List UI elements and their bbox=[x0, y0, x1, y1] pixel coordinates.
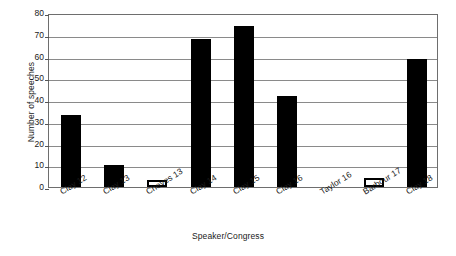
y-tick-label-20: 20 bbox=[22, 140, 44, 149]
plot-area bbox=[48, 14, 438, 188]
y-tick-label-60: 60 bbox=[22, 53, 44, 62]
bar-chart: Number of speeches 01020304050607080 Cla… bbox=[0, 0, 456, 256]
bars-layer bbox=[49, 15, 437, 187]
y-tick-label-40: 40 bbox=[22, 96, 44, 105]
bar-clay-15 bbox=[234, 26, 254, 187]
bar-clay-18 bbox=[407, 59, 427, 187]
y-tick-label-10: 10 bbox=[22, 161, 44, 170]
y-axis-tick-labels: 01020304050607080 bbox=[20, 0, 44, 256]
x-axis-title: Speaker/Congress bbox=[0, 231, 456, 241]
bar-clay-14 bbox=[191, 39, 211, 187]
y-tick-label-0: 0 bbox=[22, 183, 44, 192]
bar-clay-16 bbox=[277, 96, 297, 187]
y-tick-label-30: 30 bbox=[22, 118, 44, 127]
y-tick-label-70: 70 bbox=[22, 31, 44, 40]
y-tick-label-80: 80 bbox=[22, 9, 44, 18]
y-tick-label-50: 50 bbox=[22, 74, 44, 83]
